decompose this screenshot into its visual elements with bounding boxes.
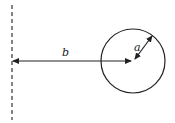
label-b: b <box>62 46 69 59</box>
label-a: a <box>134 41 141 54</box>
diagram-canvas: b a <box>0 0 175 123</box>
